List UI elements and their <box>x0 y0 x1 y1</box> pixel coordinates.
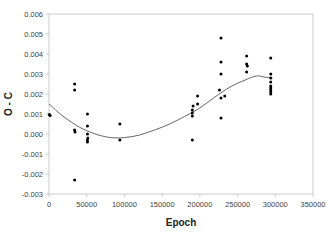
data-point <box>74 131 77 134</box>
x-tick-label: 0 <box>47 200 51 209</box>
x-tick-label: 150000 <box>150 200 175 209</box>
data-point <box>269 57 272 60</box>
data-point <box>118 139 121 142</box>
data-point <box>219 61 222 64</box>
data-point <box>218 89 221 92</box>
x-tick-label: 200000 <box>187 200 212 209</box>
data-point <box>269 73 272 76</box>
data-point <box>196 103 199 106</box>
x-tick-label: 250000 <box>225 200 250 209</box>
data-point <box>49 114 52 117</box>
data-point <box>219 73 222 76</box>
data-point <box>86 133 89 136</box>
plot-frame <box>49 14 313 194</box>
y-tick-label: 0.006 <box>24 10 43 19</box>
data-point <box>245 71 248 74</box>
data-points <box>48 37 272 182</box>
data-point <box>73 83 76 86</box>
y-axis-ticks: -0.003-0.002-0.0010.0000.0010.0020.0030.… <box>22 10 49 199</box>
x-tick-label: 100000 <box>112 200 137 209</box>
data-point <box>118 123 121 126</box>
x-tick-label: 350000 <box>300 200 325 209</box>
y-axis-title: O - C <box>3 92 14 116</box>
data-point <box>73 179 76 182</box>
data-point <box>245 55 248 58</box>
fit-curve-path <box>49 76 272 138</box>
data-point <box>86 113 89 116</box>
data-point <box>219 37 222 40</box>
fit-curve <box>49 76 272 138</box>
data-point <box>191 139 194 142</box>
data-point <box>86 141 89 144</box>
y-tick-label: 0.003 <box>24 70 43 79</box>
data-point <box>269 81 272 84</box>
data-point <box>192 105 195 108</box>
data-point <box>191 112 194 115</box>
y-tick-label: -0.002 <box>22 170 43 179</box>
data-point <box>246 65 249 68</box>
oc-chart: -0.003-0.002-0.0010.0000.0010.0020.0030.… <box>0 0 328 236</box>
data-point <box>73 89 76 92</box>
data-point <box>191 109 194 112</box>
x-tick-label: 50000 <box>76 200 97 209</box>
y-tick-label: 0.002 <box>24 90 43 99</box>
y-tick-label: 0.000 <box>24 130 43 139</box>
y-tick-label: 0.004 <box>24 50 43 59</box>
data-point <box>269 93 272 96</box>
x-axis-ticks: 0500001000001500002000002500003000003500… <box>47 194 326 209</box>
data-point <box>196 95 199 98</box>
y-tick-label: -0.001 <box>22 150 43 159</box>
y-tick-label: 0.005 <box>24 30 43 39</box>
data-point <box>219 117 222 120</box>
data-point <box>219 97 222 100</box>
data-point <box>86 125 89 128</box>
data-point <box>191 115 194 118</box>
x-tick-label: 300000 <box>263 200 288 209</box>
y-tick-label: -0.003 <box>22 190 43 199</box>
data-point <box>223 95 226 98</box>
y-tick-label: 0.001 <box>24 110 43 119</box>
data-point <box>269 77 272 80</box>
x-axis-title: Epoch <box>166 217 197 228</box>
